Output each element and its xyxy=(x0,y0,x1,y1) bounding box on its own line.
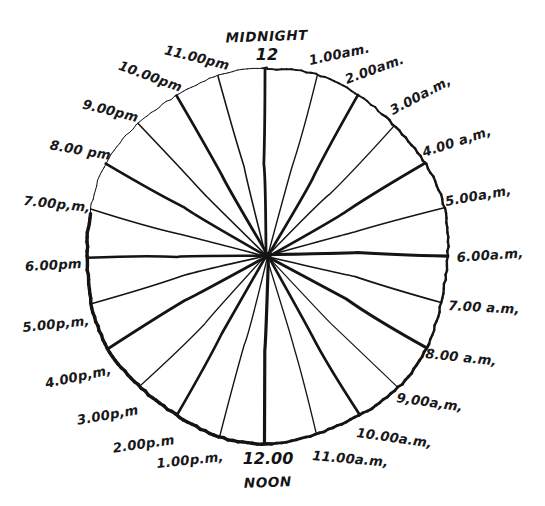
hour-label: 5.00p,m, xyxy=(22,313,91,335)
clock-face-drawing: 121.00am.2.00am.3.00a.m,4.00 a,m,5.00a,m… xyxy=(0,0,545,506)
hour-spoke xyxy=(268,257,398,388)
hour-spoke xyxy=(264,70,266,256)
hour-spoke xyxy=(106,164,268,257)
noon-caption: NOON xyxy=(244,473,293,491)
hour-spoke xyxy=(218,76,266,257)
hour-label: 1.00p.m, xyxy=(156,449,225,471)
hour-label: 8.00 a.m, xyxy=(425,346,498,368)
hour-label: 10.00pm xyxy=(117,58,184,95)
hour-label: 10.00a.m, xyxy=(356,425,434,450)
hour-spoke xyxy=(266,256,316,434)
hour-label: 4.00p,m, xyxy=(43,362,113,391)
clock-diagram-canvas: 121.00am.2.00am.3.00a.m,4.00 a,m,5.00a,m… xyxy=(0,0,545,506)
hour-label: 3.00a.m, xyxy=(387,73,453,118)
clock-center-hub xyxy=(263,252,271,259)
hour-label: 7.00p,m, xyxy=(23,193,92,215)
hour-label: 2.00p.m xyxy=(112,432,176,456)
hour-label: 7.00 a.m, xyxy=(448,298,520,317)
hour-label: 12 xyxy=(256,45,278,64)
hour-label: 3.00p,m xyxy=(76,402,140,428)
hour-spoke xyxy=(268,255,360,415)
hour-spoke xyxy=(91,209,267,257)
hour-spoke xyxy=(177,96,269,257)
hour-label: 11.00pm xyxy=(163,42,231,73)
hour-label: 12.00 xyxy=(243,449,294,468)
hour-spoke xyxy=(268,252,447,256)
hour-label: 9,00a,m, xyxy=(396,390,464,414)
hour-label: 9.00pm xyxy=(81,97,140,125)
hour-label: 5.00a,m, xyxy=(444,183,512,209)
hour-spoke xyxy=(139,256,265,387)
hour-label: 8.00 pm xyxy=(49,137,112,162)
hub-blot xyxy=(263,252,271,259)
hour-label: 1.00am. xyxy=(308,40,371,67)
hour-label: 6.00pm xyxy=(25,256,83,274)
hour-label: 4.00 a,m, xyxy=(419,123,493,160)
hour-spoke xyxy=(87,256,266,258)
hour-spoke xyxy=(264,254,268,443)
midnight-caption: MIDNIGHT xyxy=(225,27,309,46)
hour-label: 6.00a.m, xyxy=(456,245,524,265)
hour-spoke xyxy=(220,257,268,437)
hour-spoke xyxy=(108,256,268,349)
hour-label: 11.00a.m, xyxy=(312,448,389,470)
hour-spoke xyxy=(266,257,441,303)
hour-spoke xyxy=(138,123,266,255)
hour-spoke xyxy=(177,255,266,415)
